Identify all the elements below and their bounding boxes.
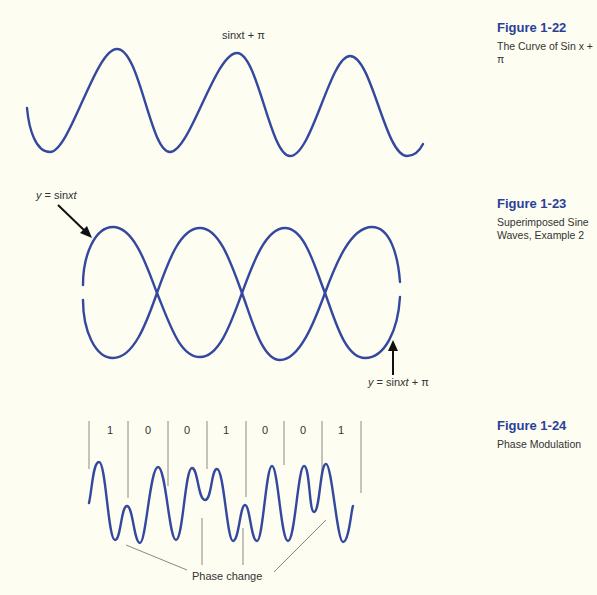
phase-change-label: Phase change (192, 570, 262, 582)
bit-value: 0 (300, 424, 306, 436)
figure-title-line: Waves, Example 2 (497, 229, 597, 242)
figure-title: The Curve of Sin x + π (497, 40, 597, 66)
phase-change-leader (274, 520, 326, 572)
arrow-to-wave-a (58, 205, 86, 232)
figure-title-line: Superimposed Sine (497, 216, 597, 229)
figure-1-22-curve-label: sinxt + π (222, 29, 265, 41)
figure-title: Superimposed Sine Waves, Example 2 (497, 216, 597, 242)
figure-number: Figure 1-22 (497, 20, 597, 36)
figure-1-22-caption: Figure 1-22 The Curve of Sin x + π (497, 20, 597, 66)
phase-change-leader (126, 545, 187, 570)
figure-1-23-caption: Figure 1-23 Superimposed Sine Waves, Exa… (497, 196, 597, 242)
bit-value: 1 (223, 424, 229, 436)
phase-modulated-wave (89, 462, 353, 543)
sine-curve-shifted (27, 49, 423, 156)
label-y-sinxt: y = sinxt (35, 189, 78, 201)
figure-number: Figure 1-24 (497, 418, 597, 434)
figure-1-24-caption: Figure 1-24 Phase Modulation (497, 418, 597, 451)
figure-1-23-graphic: y = sinxt y = sinxt + π (35, 189, 429, 388)
wave-sinxt-plus-pi (83, 227, 400, 360)
bit-value: 1 (107, 424, 113, 436)
figure-1-24-graphic: 1 0 0 1 0 0 1 Phase change (89, 421, 361, 582)
figure-title: Phase Modulation (497, 438, 597, 451)
figure-number: Figure 1-23 (497, 196, 597, 212)
bit-value: 0 (184, 424, 190, 436)
bit-value: 0 (145, 424, 151, 436)
bit-value: 0 (262, 424, 268, 436)
label-y-sinxt-plus-pi: y = sinxt + π (367, 376, 429, 388)
figure-1-22-graphic: sinxt + π (27, 29, 423, 156)
figures-canvas: sinxt + π y = sinxt y = sinxt + π 1 0 (0, 0, 597, 595)
bit-value: 1 (338, 424, 344, 436)
